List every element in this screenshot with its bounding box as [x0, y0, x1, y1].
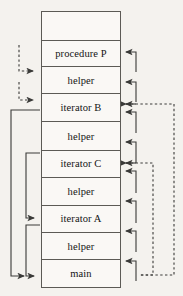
dashed-link-iterator-b-to-main	[126, 104, 174, 275]
return-hook-helper-4	[126, 261, 136, 281]
dashed-link-iterator-c-to-main	[126, 163, 153, 275]
return-hook-iterator-a	[126, 231, 136, 252]
diagram-canvas: procedure P helper iterator B helper ite…	[0, 0, 183, 296]
stack-frame-procedure-p[interactable]: procedure P	[42, 40, 120, 67]
return-hook-helper-3	[126, 201, 136, 223]
stack-frame-main[interactable]: main	[42, 259, 120, 287]
dashed-hook-to-helper-1	[19, 45, 33, 71]
stack-frame-iterator-c[interactable]: iterator C	[42, 150, 120, 177]
return-hook-iterator-b-out	[126, 112, 136, 133]
stack-frame-iterator-a[interactable]: iterator A	[42, 205, 120, 232]
stack-frame-helper-4[interactable]: helper	[42, 232, 120, 260]
return-hook-procedure-p	[126, 52, 136, 72]
return-hook-iterator-c-out	[126, 171, 136, 193]
call-stack: procedure P helper iterator B helper ite…	[41, 11, 121, 288]
return-hook-helper-1	[126, 82, 136, 102]
stack-frame-helper-2[interactable]: helper	[42, 121, 120, 150]
dashed-hook-to-iterator-b	[19, 82, 33, 100]
bracket-iterator-a-to-main	[26, 225, 40, 276]
bracket-iterator-c-to-iterator-a	[26, 153, 40, 218]
stack-frame-empty	[42, 12, 120, 40]
stack-frame-helper-3[interactable]: helper	[42, 177, 120, 206]
stack-frame-helper-1[interactable]: helper	[42, 66, 120, 93]
stack-frame-iterator-b[interactable]: iterator B	[42, 93, 120, 122]
return-hook-helper-2	[126, 142, 136, 163]
